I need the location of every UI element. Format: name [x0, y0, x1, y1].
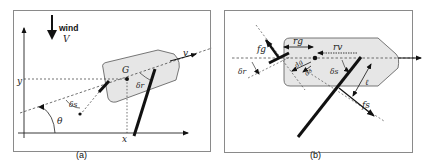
center-point: [313, 56, 318, 61]
panel-b-drawing: fg δr rg rv dg ds fs ℓ δs (b): [232, 25, 421, 160]
caption-b: (b): [310, 150, 321, 160]
sail-angle-label: δs: [330, 67, 339, 76]
diagram-canvas-b: fg δr rg rv dg ds fs ℓ δs (b): [0, 0, 438, 166]
rudder-arm-label: rg: [293, 36, 303, 46]
sail-force-label: fs: [361, 100, 370, 110]
rudder-force-label: fg: [256, 44, 266, 54]
rudder-force-arrow: [266, 40, 279, 58]
rudder-angle-label: δr: [238, 67, 247, 76]
rudder-angle-arc: [252, 62, 259, 74]
sail-arm-label: rv: [333, 42, 342, 52]
